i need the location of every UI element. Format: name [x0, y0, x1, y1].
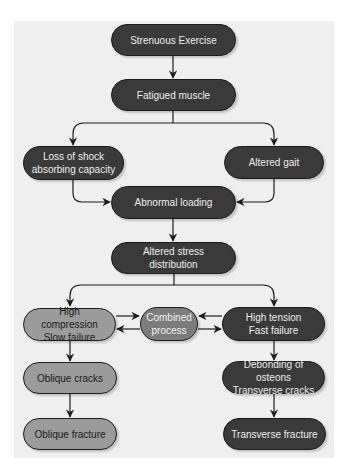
node-fatigued-muscle: Fatigued muscle: [111, 79, 236, 111]
node-debonding-of-osteons: Debonding of osteons Transverse cracks: [222, 361, 325, 394]
node-label: Abnormal loading: [135, 196, 213, 209]
node-label: Fatigued muscle: [137, 89, 210, 102]
node-altered-gait: Altered gait: [224, 146, 324, 179]
node-label: Loss of shock absorbing capacity: [32, 150, 115, 176]
connector-layer: [0, 0, 348, 472]
arrow-fatigue-to-loss-of-shock: [73, 123, 173, 145]
node-label: Debonding of osteons Transverse cracks: [226, 358, 321, 397]
node-label: Strenuous Exercise: [130, 34, 217, 47]
node-high-compression: High compression Slow failure: [23, 308, 116, 341]
arrow-stress-to-compression: [70, 285, 174, 306]
node-high-tension: High tension Fast failure: [222, 307, 325, 341]
node-label: Combined process: [146, 311, 192, 337]
arrow-fatigue-to-altered-gait: [173, 123, 274, 145]
node-label: Transverse fracture: [231, 428, 317, 441]
node-label: High tension Fast failure: [246, 311, 302, 337]
node-abnormal-loading: Abnormal loading: [111, 186, 236, 219]
node-strenuous-exercise: Strenuous Exercise: [111, 24, 236, 56]
node-oblique-cracks: Oblique cracks: [23, 362, 117, 394]
arrow-stress-to-tension: [174, 285, 274, 306]
node-label: Oblique fracture: [34, 428, 105, 441]
node-altered-stress-distribution: Altered stress distribution: [111, 242, 236, 274]
arrow-altered-gait-to-abnormal-loading: [237, 179, 274, 202]
node-loss-of-shock: Loss of shock absorbing capacity: [23, 146, 124, 180]
node-label: Altered stress distribution: [118, 245, 229, 271]
node-label: Altered gait: [249, 156, 300, 169]
node-label: Oblique cracks: [37, 372, 103, 385]
node-oblique-fracture: Oblique fracture: [23, 418, 117, 450]
node-transverse-fracture: Transverse fracture: [223, 418, 326, 450]
node-combined-process: Combined process: [140, 307, 198, 341]
arrow-loss-of-shock-to-abnormal-loading: [73, 180, 110, 202]
node-label: High compression Slow failure: [30, 305, 109, 344]
